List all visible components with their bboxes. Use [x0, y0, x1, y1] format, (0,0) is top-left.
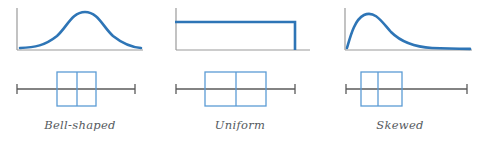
- boxplot-skewed: [322, 62, 478, 112]
- boxplot-uniform: [158, 62, 322, 112]
- density-curve-skewed: [347, 14, 470, 49]
- boxplot-bell-shaped: [0, 62, 160, 112]
- density-curve-uniform: [175, 22, 295, 50]
- panel-uniform: Uniform: [158, 0, 322, 152]
- distribution-shapes-figure: Bell-shaped Uniform: [0, 0, 478, 152]
- panel-skewed: Skewed: [322, 0, 478, 152]
- panel-label-bell-shaped: Bell-shaped: [0, 118, 160, 132]
- curve-plot-bell-shaped: [0, 0, 160, 62]
- panel-bell-shaped: Bell-shaped: [0, 0, 160, 152]
- curve-plot-skewed: [322, 0, 478, 62]
- curve-plot-uniform: [158, 0, 322, 62]
- panel-label-skewed: Skewed: [322, 118, 478, 132]
- density-curve-bell-shaped: [20, 12, 141, 48]
- panel-label-uniform: Uniform: [158, 118, 322, 132]
